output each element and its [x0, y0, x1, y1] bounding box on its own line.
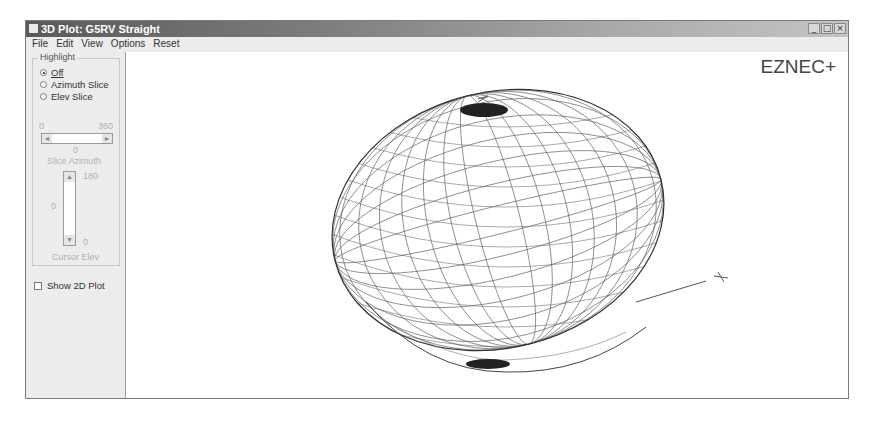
radio-azimuth-slice-label: Azimuth Slice: [51, 79, 109, 90]
app-window-icon[interactable]: [29, 24, 38, 33]
x-axis-line: [636, 281, 706, 302]
radio-selected-icon[interactable]: [40, 69, 47, 76]
top-pole-density: [460, 103, 508, 117]
slice-azimuth-scrollbar[interactable]: ◄ ►: [41, 133, 113, 144]
scroll-up-icon[interactable]: ▲: [64, 172, 75, 182]
menu-reset[interactable]: Reset: [149, 37, 183, 51]
elev-value: 0: [51, 201, 56, 211]
highlight-group-label: Highlight: [38, 52, 77, 62]
cursor-elev-label: Cursor Elev: [52, 252, 99, 262]
show-2d-plot-label: Show 2D Plot: [47, 280, 105, 291]
slice-azimuth-label: Slice Azimuth: [47, 156, 101, 166]
minimize-button[interactable]: _: [808, 23, 820, 34]
highlight-group: Highlight Off Azimuth Slice Elev Slice 0…: [32, 58, 120, 266]
scroll-down-icon[interactable]: ▼: [64, 235, 75, 245]
3d-plot-canvas[interactable]: EZNEC+: [126, 52, 848, 398]
checkbox-unchecked-icon[interactable]: [34, 282, 42, 290]
menu-bar: File Edit View Options Reset: [26, 37, 848, 51]
elev-max-label: 180: [83, 171, 98, 181]
azimuth-value: 0: [73, 145, 78, 155]
radio-unselected-icon[interactable]: [40, 81, 47, 88]
window-title: 3D Plot: G5RV Straight: [41, 22, 160, 36]
cursor-elev-scrollbar[interactable]: ▲ ▼: [63, 171, 76, 246]
menu-view[interactable]: View: [77, 37, 107, 51]
close-button[interactable]: ×: [834, 23, 846, 34]
azimuth-min-label: 0: [39, 121, 44, 131]
menu-file[interactable]: File: [28, 37, 52, 51]
title-bar[interactable]: 3D Plot: G5RV Straight _ □ ×: [26, 21, 848, 37]
menu-edit[interactable]: Edit: [52, 37, 77, 51]
radio-off[interactable]: Off: [40, 67, 64, 78]
bottom-pole-density: [466, 359, 510, 369]
menu-options[interactable]: Options: [107, 37, 149, 51]
radiation-pattern-wireframe: [126, 52, 848, 398]
control-panel: Highlight Off Azimuth Slice Elev Slice 0…: [26, 52, 126, 398]
radio-azimuth-slice[interactable]: Azimuth Slice: [40, 79, 109, 90]
radio-off-label: Off: [51, 67, 64, 78]
maximize-button[interactable]: □: [821, 23, 833, 34]
radio-elev-slice-label: Elev Slice: [51, 91, 93, 102]
x-axis-label-icon: [714, 272, 728, 282]
scroll-right-icon[interactable]: ►: [102, 134, 112, 143]
scroll-left-icon[interactable]: ◄: [42, 134, 52, 143]
azimuth-max-label: 360: [98, 121, 113, 131]
window-controls: _ □ ×: [808, 23, 846, 34]
elev-min-label: 0: [83, 237, 88, 247]
radio-elev-slice[interactable]: Elev Slice: [40, 91, 93, 102]
show-2d-plot-checkbox[interactable]: Show 2D Plot: [34, 280, 105, 291]
plot-window: 3D Plot: G5RV Straight _ □ × File Edit V…: [25, 20, 849, 399]
radio-unselected-icon[interactable]: [40, 93, 47, 100]
